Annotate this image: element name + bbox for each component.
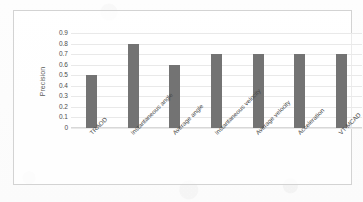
y-axis-tick-labels: 0.90.80.70.60.50.40.30.20.10	[50, 28, 68, 133]
bar	[128, 44, 139, 128]
y-axis-tick-label: 0.1	[59, 113, 68, 121]
x-axis-category-labels: TRAODInstantaneous angleAverage angleIns…	[71, 128, 362, 188]
bar	[211, 54, 222, 128]
y-axis-tick-label: 0.2	[59, 103, 68, 111]
y-axis-title-label: Precision	[40, 66, 47, 96]
bar	[86, 75, 97, 128]
y-axis-tick-label: 0.3	[59, 92, 68, 100]
y-axis-tick-label: 0	[64, 124, 68, 132]
y-axis-tick-label: 0.5	[59, 71, 68, 79]
chart-frame: Precision 0.90.80.70.60.50.40.30.20.10 T…	[13, 10, 352, 185]
y-axis-tick-label: 0.8	[59, 40, 68, 48]
y-axis-tick-label: 0.4	[59, 82, 68, 90]
y-axis-tick-label: 0.9	[59, 29, 68, 37]
bar	[294, 54, 305, 128]
y-axis-tick-label: 0.7	[59, 50, 68, 58]
y-axis-tick-label: 0.6	[59, 61, 68, 69]
bar	[336, 54, 347, 128]
y-axis-title: Precision	[37, 33, 49, 129]
